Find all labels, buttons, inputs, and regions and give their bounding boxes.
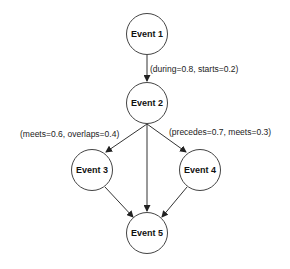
node-event-3: Event 3 [72,150,113,191]
node-label: Event 3 [76,165,108,175]
node-event-2: Event 2 [127,83,168,124]
node-event-4: Event 4 [180,150,221,191]
node-event-1: Event 1 [127,14,168,55]
edge-e3-e5 [105,187,133,217]
node-label: Event 1 [131,29,163,39]
node-label: Event 4 [184,165,216,175]
edge-label-e2-e4: (precedes=0.7, meets=0.3) [169,127,271,137]
edge-e4-e5 [162,187,187,217]
edge-label-e2-e3: (meets=0.6, overlaps=0.4) [20,129,119,139]
node-event-5: Event 5 [127,213,168,254]
node-label: Event 2 [131,98,163,108]
node-label: Event 5 [131,228,163,238]
event-graph: Event 1 Event 2 Event 3 Event 4 Event 5 … [0,0,290,269]
edge-label-e1-e2: (during=0.8, starts=0.2) [150,64,239,74]
